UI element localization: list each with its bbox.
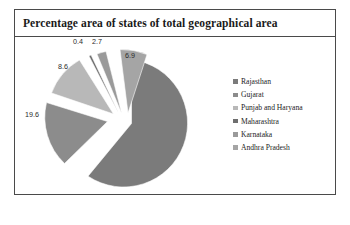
legend-item-andhra-pradesh[interactable]: Andhra Pradesh [233, 141, 333, 154]
pie-slice-gujarat[interactable] [45, 103, 108, 164]
pie-label-karnataka: 2.7 [92, 37, 102, 46]
pie-label-maharashtra: 0.4 [73, 37, 83, 46]
pie-chart: 61.8 19.6 8.6 0.4 2.7 6.9 [19, 33, 219, 193]
legend-item-punjab-and-haryana[interactable]: Punjab and Haryana [233, 101, 333, 114]
legend-item-rajasthan[interactable]: Rajasthan [233, 75, 333, 88]
legend-swatch-icon [233, 145, 238, 150]
legend-label: Punjab and Haryana [241, 103, 303, 112]
pie-label-rajasthan: 61.8 [182, 151, 196, 160]
legend-swatch-icon [233, 93, 238, 98]
legend-label: Maharashtra [241, 117, 279, 126]
plot-area: 61.8 19.6 8.6 0.4 2.7 6.9 Rajasthan Guja… [15, 37, 335, 195]
legend-swatch-icon [233, 132, 238, 137]
legend-swatch-icon [233, 119, 238, 124]
legend-label: Rajasthan [241, 77, 271, 86]
legend-swatch-icon [233, 106, 238, 111]
pie-svg: 61.8 19.6 8.6 0.4 2.7 6.9 [19, 33, 219, 193]
pie-label-gujarat: 19.6 [25, 110, 39, 119]
legend-item-gujarat[interactable]: Gujarat [233, 88, 333, 101]
legend-item-maharashtra[interactable]: Maharashtra [233, 115, 333, 128]
page-title: Percentage area of states of total geogr… [15, 17, 278, 29]
pie-label-punjab-haryana: 8.6 [58, 62, 68, 71]
pie-label-andhra-pradesh: 6.9 [125, 51, 135, 60]
legend-label: Karnataka [241, 130, 272, 139]
legend-item-karnataka[interactable]: Karnataka [233, 128, 333, 141]
legend-label: Andhra Pradesh [241, 143, 290, 152]
chart-figure: Percentage area of states of total geogr… [14, 9, 336, 195]
legend-label: Gujarat [241, 90, 264, 99]
legend-swatch-icon [233, 79, 238, 84]
chart-legend: Rajasthan Gujarat Punjab and Haryana Mah… [233, 75, 333, 154]
